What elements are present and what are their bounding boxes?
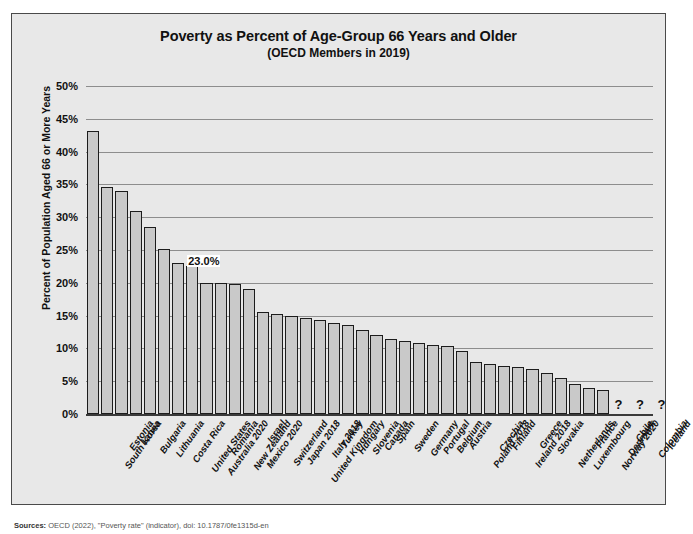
- bar-italy-2018: [300, 318, 312, 414]
- bar-united-kingdom: [285, 316, 297, 414]
- bar-spain: [370, 335, 382, 414]
- y-tick-label: 20%: [56, 277, 78, 289]
- y-axis-title: Percent of Population Aged 66 or More Ye…: [40, 78, 52, 318]
- bar-belgium: [427, 345, 439, 414]
- bar-netherlands: [541, 373, 553, 414]
- y-tick-label: 10%: [56, 342, 78, 354]
- y-tick-label: 45%: [56, 113, 78, 125]
- bar-costa-rica: [158, 249, 170, 414]
- bar-bulgaria: [130, 211, 142, 414]
- y-tick-label: 40%: [56, 146, 78, 158]
- bar-slovakia: [526, 369, 538, 414]
- bar-sweden: [385, 339, 397, 414]
- bar-turkey: [314, 320, 326, 414]
- chart-subtitle: (OECD Members in 2019): [12, 46, 665, 60]
- source-note: Sources: OECD (2022), "Poverty rate" (in…: [14, 521, 269, 530]
- y-tick-label: 30%: [56, 211, 78, 223]
- bar-denmark: [597, 390, 609, 414]
- y-tick-label: 5%: [62, 375, 78, 387]
- bar-switzerland: [257, 312, 269, 414]
- bar-germany: [399, 341, 411, 414]
- bar-canada: [356, 330, 368, 414]
- bar-israel: [243, 289, 255, 414]
- chart-figure: Poverty as Percent of Age-Group 66 Years…: [11, 13, 666, 505]
- bar-mexico-2020: [229, 284, 241, 414]
- bar-australia-2020: [186, 266, 198, 414]
- bar-lithuania: [144, 227, 156, 414]
- y-tick-label: 50%: [56, 80, 78, 92]
- y-tick-label: 15%: [56, 310, 78, 322]
- bar-czechia: [470, 362, 482, 414]
- bar-series: [86, 86, 653, 414]
- bar-slovenia: [342, 325, 354, 414]
- bar-united-states: [172, 263, 184, 414]
- gridline-0%: [86, 414, 653, 416]
- bar-ireland-2018: [498, 366, 510, 414]
- bar-france: [569, 384, 581, 414]
- bar-portugal: [413, 343, 425, 415]
- chart-title-block: Poverty as Percent of Age-Group 66 Years…: [12, 28, 665, 60]
- y-tick-label: 0%: [62, 408, 78, 420]
- bar-estonia: [101, 187, 113, 414]
- missing-data-marker: ? ? ?: [614, 397, 670, 412]
- y-tick-label: 35%: [56, 178, 78, 190]
- source-text: OECD (2022), "Poverty rate" (indicator),…: [48, 521, 268, 530]
- bar-new-zealand: [215, 283, 227, 414]
- bar-greece: [512, 367, 524, 414]
- bar-latvia: [115, 191, 127, 414]
- bar-poland-2018: [456, 351, 468, 414]
- bar-romania: [200, 283, 212, 414]
- bar-south-korea: [87, 131, 99, 414]
- bar-luxembourg: [555, 378, 567, 414]
- bar-hungary: [328, 323, 340, 414]
- y-tick-label: 25%: [56, 244, 78, 256]
- data-label-united-states: 23.0%: [187, 255, 220, 267]
- bar-norway-2020: [583, 388, 595, 414]
- plot-area: 0%5%10%15%20%25%30%35%40%45%50% South Ko…: [86, 86, 653, 414]
- bar-japan-2018: [271, 314, 283, 414]
- bar-austria: [441, 346, 453, 414]
- source-prefix: Sources:: [14, 521, 46, 530]
- bar-finland: [484, 364, 496, 414]
- chart-title: Poverty as Percent of Age-Group 66 Years…: [12, 28, 665, 45]
